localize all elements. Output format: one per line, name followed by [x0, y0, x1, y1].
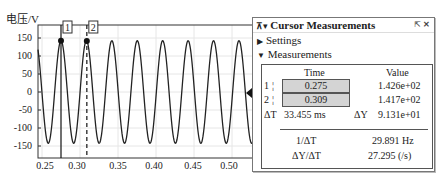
cursor-2-time-input[interactable]: 0.309 [282, 93, 350, 107]
y-tick: 0 [0, 87, 32, 97]
x-tick: 0.45 [178, 160, 208, 171]
x-tick: 0.30 [62, 160, 92, 171]
y-tick: 50 [0, 69, 32, 79]
collapse-icon[interactable]: ⊼▾ [256, 21, 268, 31]
y-tick: -50 [0, 105, 32, 115]
dy-dt-label: ΔY/ΔT [292, 150, 321, 162]
delta-y-label: ΔY [354, 109, 368, 121]
col-time-header: Time [304, 67, 325, 79]
panel-header: ⊼▾ Cursor Measurements ⇱ ✕ [253, 18, 434, 33]
separator: ¦ [272, 80, 274, 92]
measurements-table: Time Value 1 ¦ 0.275 1.426e+02 2 ¦ 0.309… [261, 64, 433, 169]
dy-dt-value: 27.295 (/s) [368, 150, 411, 162]
col-value-header: Value [386, 67, 409, 79]
cursor-1-time-input[interactable]: 0.275 [282, 79, 350, 93]
y-tick: 150 [0, 33, 32, 43]
cursor-1-label: 1 [264, 80, 269, 92]
x-tick: 0.40 [139, 160, 169, 171]
x-tick: 0.35 [103, 160, 133, 171]
measurements-section-toggle[interactable]: ▼ Measurements [257, 48, 332, 62]
panel-title: Cursor Measurements [270, 19, 375, 31]
cursor-2-value: 1.417e+02 [378, 94, 421, 106]
plot-area: 电压/V 12 150 100 50 0 -50 -100 -150 0.25 … [0, 0, 256, 177]
y-tick: -150 [0, 141, 32, 151]
y-tick: 100 [0, 51, 32, 61]
svg-text:2: 2 [91, 22, 96, 33]
measurements-label: Measurements [268, 48, 332, 60]
x-tick: 0.50 [214, 160, 244, 171]
svg-text:1: 1 [65, 22, 70, 33]
delta-t-label: ΔT [264, 109, 277, 121]
divider [280, 129, 428, 130]
x-tick: 0.25 [30, 160, 60, 171]
inv-dt-value: 29.891 Hz [372, 135, 414, 147]
delta-t-value: 33.455 ms [284, 109, 326, 121]
delta-y-value: 9.131e+01 [378, 109, 421, 121]
separator: ¦ [272, 94, 274, 106]
y-tick: -100 [0, 123, 32, 133]
caret-down-icon: ▼ [257, 51, 265, 60]
caret-right-icon: ▶ [257, 37, 263, 46]
undock-close-icons[interactable]: ⇱ ✕ [414, 18, 430, 32]
settings-section-toggle[interactable]: ▶ Settings [257, 34, 301, 48]
cursor-measurements-panel: ⊼▾ Cursor Measurements ⇱ ✕ ▶ Settings ▼ … [252, 17, 435, 172]
waveform-plot[interactable]: 12 [0, 0, 256, 177]
settings-label: Settings [266, 34, 301, 46]
inv-dt-label: 1/ΔT [296, 135, 316, 147]
cursor-2-label: 2 [264, 94, 269, 106]
cursor-1-value: 1.426e+02 [378, 80, 421, 92]
